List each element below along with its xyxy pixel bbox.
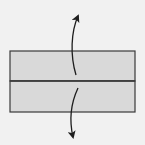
unfold-diagram — [0, 0, 145, 145]
